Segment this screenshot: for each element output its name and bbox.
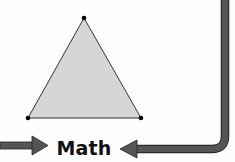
triangle-shape xyxy=(28,18,141,118)
left-arrow-icon xyxy=(0,136,48,155)
diagram-canvas: Math xyxy=(0,0,235,162)
vertex-top-dot xyxy=(82,16,87,21)
vertex-right-dot xyxy=(139,116,144,121)
math-label: Math xyxy=(52,137,116,159)
diagram-graphics xyxy=(0,0,235,162)
return-arrow-icon xyxy=(120,0,225,158)
vertex-left-dot xyxy=(26,116,31,121)
